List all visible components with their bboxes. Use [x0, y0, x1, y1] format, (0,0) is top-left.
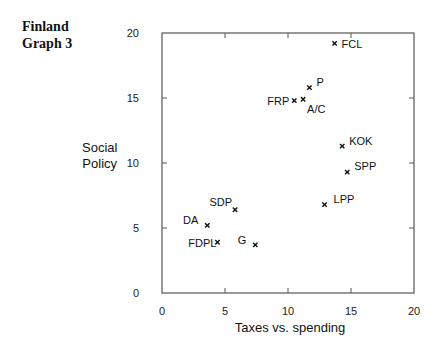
point-label: KOK — [349, 135, 373, 147]
point-label: FRP — [267, 95, 289, 107]
point-label: SDP — [209, 196, 232, 208]
data-point: A/C — [301, 97, 326, 115]
data-point: SPP — [345, 160, 376, 174]
point-label: SPP — [354, 160, 376, 172]
data-point: KOK — [340, 135, 373, 148]
y-tick-label: 0 — [133, 287, 139, 299]
x-marker-icon — [205, 223, 209, 227]
x-tick-label: 5 — [222, 305, 228, 317]
x-tick-label: 0 — [159, 305, 165, 317]
point-label: A/C — [307, 103, 325, 115]
point-label: P — [316, 76, 323, 88]
x-marker-icon — [322, 202, 326, 206]
x-marker-icon — [301, 97, 305, 101]
x-marker-icon — [292, 98, 296, 102]
data-point: P — [307, 76, 324, 90]
data-point: LPP — [322, 193, 354, 207]
x-marker-icon — [233, 208, 237, 212]
point-label: G — [238, 234, 247, 246]
x-marker-icon — [345, 170, 349, 174]
data-point: FRP — [267, 95, 296, 107]
y-tick-label: 10 — [127, 157, 139, 169]
y-tick-label: 5 — [133, 222, 139, 234]
scatter-plot: 0510152005101520 FCLPFRPA/CKOKSPPLPPSDPD… — [0, 0, 439, 346]
y-tick-label: 20 — [127, 27, 139, 39]
data-points: FCLPFRPA/CKOKSPPLPPSDPDAFDPLG — [183, 38, 376, 249]
data-point: SDP — [209, 196, 237, 212]
x-marker-icon — [307, 85, 311, 89]
x-tick-label: 15 — [345, 305, 357, 317]
x-marker-icon — [340, 144, 344, 148]
data-point: DA — [183, 214, 209, 227]
point-label: LPP — [334, 193, 355, 205]
x-marker-icon — [332, 41, 336, 45]
y-tick-label: 15 — [127, 92, 139, 104]
x-tick-label: 10 — [282, 305, 294, 317]
x-marker-icon — [253, 243, 257, 247]
point-label: FDPL — [188, 237, 216, 249]
data-point: FDPL — [188, 237, 219, 249]
data-point: FCL — [332, 38, 362, 50]
point-label: FCL — [342, 38, 363, 50]
x-tick-label: 20 — [408, 305, 420, 317]
point-label: DA — [183, 214, 199, 226]
data-point: G — [238, 234, 258, 247]
